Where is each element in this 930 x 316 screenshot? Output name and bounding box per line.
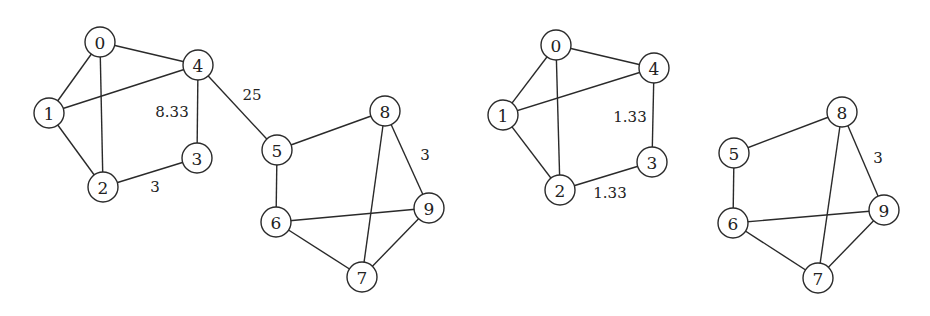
node-2: 2 [545, 175, 575, 205]
edge-weight-3-4: 1.33 [613, 108, 646, 126]
edge-weight-2-3: 3 [150, 178, 160, 196]
node-3: 3 [182, 143, 212, 173]
node-label: 9 [424, 199, 435, 219]
edge-0-2 [556, 45, 560, 190]
node-5: 5 [262, 135, 292, 165]
edge-weight-4-5: 25 [242, 86, 261, 104]
graph-diagram: 012345678938.33253 01234567891.331.333 [0, 0, 930, 316]
edge-weight-3-4: 8.33 [155, 103, 188, 121]
node-0: 0 [85, 27, 115, 57]
node-label: 1 [44, 104, 55, 124]
node-5: 5 [719, 138, 749, 168]
node-label: 0 [95, 33, 106, 53]
node-label: 3 [647, 153, 658, 173]
edge-7-8 [818, 112, 842, 278]
node-label: 2 [555, 181, 566, 201]
node-0: 0 [541, 30, 571, 60]
node-6: 6 [261, 207, 291, 237]
edge-weight-2-3: 1.33 [593, 184, 626, 202]
node-label: 6 [271, 213, 282, 233]
node-1: 1 [488, 100, 518, 130]
node-label: 5 [272, 141, 283, 161]
edge-weight-8-9: 3 [420, 146, 430, 164]
nodes: 0123456789 [34, 27, 444, 292]
edges [49, 42, 429, 277]
edge-7-8 [362, 111, 385, 277]
node-label: 2 [98, 178, 109, 198]
right-graph: 01234567891.331.333 [488, 30, 899, 293]
node-label: 8 [837, 103, 848, 123]
node-6: 6 [718, 208, 748, 238]
node-label: 7 [357, 268, 368, 288]
edge-5-8 [734, 112, 842, 153]
edge-6-9 [276, 208, 429, 222]
node-label: 7 [813, 269, 824, 289]
node-label: 6 [728, 214, 739, 234]
edge-6-9 [733, 210, 884, 223]
node-label: 1 [498, 106, 509, 126]
node-7: 7 [803, 263, 833, 293]
node-4: 4 [183, 50, 213, 80]
node-1: 1 [34, 98, 64, 128]
edge-4-5 [198, 65, 277, 150]
node-8: 8 [370, 96, 400, 126]
node-7: 7 [347, 262, 377, 292]
node-8: 8 [827, 97, 857, 127]
node-3: 3 [637, 147, 667, 177]
edges [503, 45, 884, 278]
edge-weight-8-9: 3 [873, 149, 883, 167]
edge-5-8 [277, 111, 385, 150]
node-label: 3 [192, 149, 203, 169]
edge-0-2 [100, 42, 103, 187]
node-label: 0 [551, 36, 562, 56]
left-graph: 012345678938.33253 [34, 27, 444, 292]
node-label: 9 [879, 201, 890, 221]
nodes: 0123456789 [488, 30, 899, 293]
node-4: 4 [639, 53, 669, 83]
node-label: 4 [193, 56, 204, 76]
node-9: 9 [414, 193, 444, 223]
node-9: 9 [869, 195, 899, 225]
node-label: 4 [649, 59, 660, 79]
node-label: 5 [729, 144, 740, 164]
node-2: 2 [88, 172, 118, 202]
node-label: 8 [380, 102, 391, 122]
